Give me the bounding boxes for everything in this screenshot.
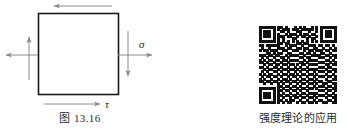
element-square [39,14,119,95]
shear-stress-label: τ [105,98,110,110]
normal-stress-label: σ [139,38,145,50]
stress-element-diagram: τ σ [0,0,180,112]
qr-code-image[interactable] [259,26,337,104]
figure-caption: 图 13.16 [0,112,160,125]
stress-element-figure: τ σ 图 13.16 [0,0,180,134]
qr-code-caption: 强度理论的应用 [252,112,344,125]
